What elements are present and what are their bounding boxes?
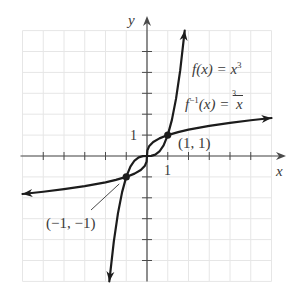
legend-f-of-x: f(x) = x3 [192, 62, 242, 77]
f-argument: (x) = x [196, 61, 237, 77]
graph-canvas [0, 0, 295, 298]
legend-f-inverse: f−1(x) = 3x [185, 97, 243, 112]
y-axis-label: y [128, 13, 135, 28]
y-tick-label-1: 1 [130, 129, 137, 143]
x-tick-label-1: 1 [164, 164, 171, 178]
intersection-point-marker [123, 173, 130, 180]
intersection-point-marker [164, 132, 171, 139]
point-label-1-1: (1, 1) [178, 136, 211, 151]
axes [21, 16, 287, 281]
f-exponent: 3 [237, 60, 242, 70]
finv-exponent: −1 [189, 95, 199, 105]
x-axis-label: x [276, 164, 283, 179]
cube-root-icon: 3x [233, 97, 243, 112]
finv-argument: (x) = [199, 96, 233, 112]
point-label-neg1-neg1: (−1, −1) [46, 216, 95, 231]
root-index: 3 [232, 90, 236, 98]
